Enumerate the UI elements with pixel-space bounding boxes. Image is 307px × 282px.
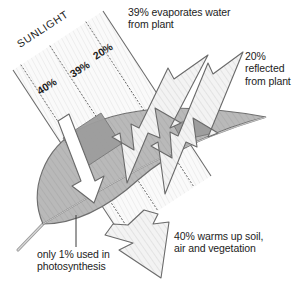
leaf-stem-highlight (18, 224, 43, 250)
callout-reflected: 20% reflected from plant (245, 50, 291, 87)
callout-photosynthesis: only 1% used in photosynthesis (37, 248, 110, 273)
callout-warms: 40% warms up soil, air and vegetation (174, 230, 263, 255)
callout-evaporates: 39% evaporates water from plant (128, 6, 230, 31)
diagram-canvas: SUNLIGHT 40% 39% 20% (0, 0, 307, 282)
